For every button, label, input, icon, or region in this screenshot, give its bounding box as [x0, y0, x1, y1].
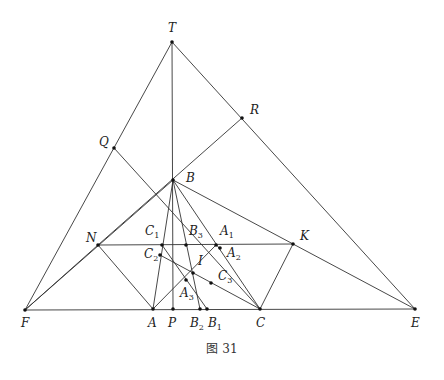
point-I — [191, 271, 195, 275]
point-B1 — [205, 307, 209, 311]
point-C1 — [160, 243, 164, 247]
point-R — [240, 116, 244, 120]
label-I: I — [197, 254, 203, 268]
point-A — [151, 307, 155, 311]
label-E: E — [410, 316, 420, 330]
point-C3 — [209, 281, 213, 285]
label-C1: C1 — [145, 224, 159, 240]
segment-F-E — [25, 309, 415, 310]
segment-T-E — [172, 42, 415, 309]
label-B3: B3 — [188, 224, 203, 240]
label-B1: B1 — [207, 316, 222, 332]
point-B3 — [184, 243, 188, 247]
point-A3 — [184, 278, 188, 282]
point-P — [171, 307, 175, 311]
label-C3: C3 — [218, 269, 232, 285]
geometry-figure: TRQBNKC1B3A1A2C2IA3C3FAPB2B1CE — [0, 0, 444, 380]
label-F: F — [20, 316, 30, 330]
point-N — [96, 243, 100, 247]
point-F — [23, 308, 27, 312]
label-A2: A2 — [226, 246, 241, 262]
label-A1: A1 — [219, 224, 234, 240]
segment-N-K — [98, 244, 293, 245]
point-E — [413, 307, 417, 311]
point-A1 — [214, 243, 218, 247]
point-C — [258, 307, 262, 311]
label-R: R — [249, 103, 259, 117]
point-Q — [112, 146, 116, 150]
point-C2 — [158, 253, 162, 257]
point-A2 — [218, 246, 222, 250]
segment-T-F — [25, 42, 172, 310]
label-T: T — [168, 21, 177, 35]
segment-K-C — [260, 244, 293, 309]
label-A: A — [147, 316, 157, 330]
label-C2: C2 — [144, 247, 158, 263]
label-B: B — [185, 171, 195, 185]
segment-T-P — [172, 42, 173, 309]
point-T — [170, 40, 174, 44]
label-A3: A3 — [179, 286, 194, 302]
label-N: N — [85, 231, 97, 245]
label-B2: B2 — [189, 316, 204, 332]
point-B — [171, 178, 175, 182]
figure-caption: 图 31 — [0, 339, 444, 356]
figure-labels: TRQBNKC1B3A1A2C2IA3C3FAPB2B1CE — [20, 21, 420, 332]
point-K — [291, 242, 295, 246]
label-P: P — [167, 316, 177, 330]
label-K: K — [299, 229, 310, 243]
label-C: C — [256, 316, 265, 330]
label-Q: Q — [99, 135, 109, 149]
point-B2 — [198, 307, 202, 311]
